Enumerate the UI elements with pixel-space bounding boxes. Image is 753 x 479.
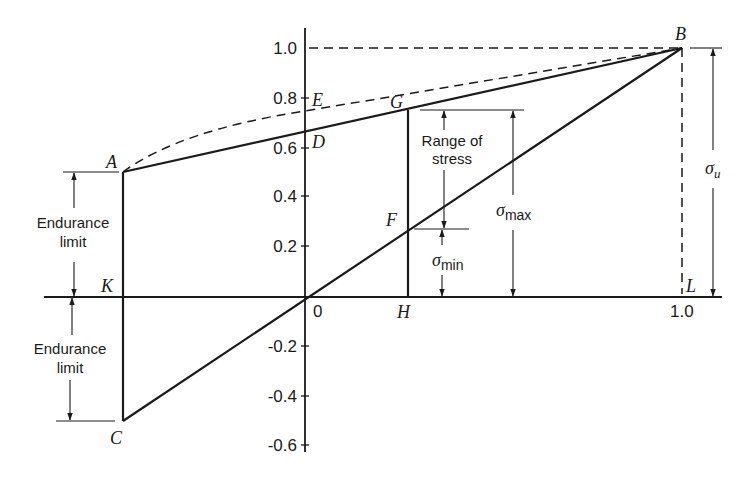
y-tick-label: -0.4 [268, 387, 297, 406]
x-tick-label-1: 1.0 [670, 302, 694, 321]
y-tick-label: 0.8 [273, 89, 297, 108]
point-label-B: B [675, 24, 686, 44]
point-label-F: F [385, 210, 398, 230]
y-tick-label: 0.2 [273, 237, 297, 256]
point-labels: A B C D E F G H K L [100, 24, 696, 448]
y-tick-label: 0.4 [273, 187, 297, 206]
sigma-max-label: σmax [496, 200, 531, 223]
y-tick-labels: 1.0 0.8 0.6 0.4 0.2 -0.2 -0.4 -0.6 0 1.0 [268, 39, 694, 455]
endurance-upper-label: limit [60, 233, 87, 250]
origin-label: 0 [313, 302, 322, 321]
point-label-G: G [390, 92, 403, 112]
y-tick-label: -0.2 [268, 337, 297, 356]
range-of-stress-label: stress [432, 150, 472, 167]
point-label-L: L [685, 276, 696, 296]
point-label-E: E [311, 90, 323, 110]
sigma-u-label: σu [705, 158, 721, 181]
point-label-D: D [311, 132, 325, 152]
sigma-min-label: σmin [432, 250, 463, 273]
endurance-upper-label: Endurance [37, 214, 110, 231]
endurance-lower-label: Endurance [34, 340, 107, 357]
dashed-lines [123, 48, 682, 294]
point-label-K: K [100, 276, 114, 296]
endurance-lower-label: limit [57, 359, 84, 376]
y-tick-label: -0.6 [268, 436, 297, 455]
axes [44, 28, 722, 452]
y-tick-label: 0.6 [273, 139, 297, 158]
point-label-H: H [396, 302, 411, 322]
point-label-C: C [110, 428, 123, 448]
y-tick-label: 1.0 [273, 39, 297, 58]
range-of-stress-label: Range of [422, 132, 484, 149]
dimension-lines [56, 48, 722, 421]
point-label-A: A [105, 152, 118, 172]
goodman-diagram: 1.0 0.8 0.6 0.4 0.2 -0.2 -0.4 -0.6 0 1.0 [0, 0, 753, 479]
